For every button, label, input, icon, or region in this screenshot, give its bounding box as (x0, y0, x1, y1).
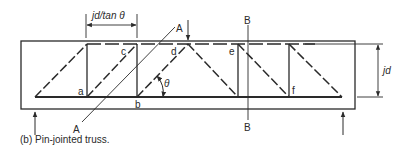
angle-arc (157, 76, 163, 97)
node-label-a: a (78, 86, 84, 97)
figure-caption: (b) Pin-jointed truss. (20, 134, 109, 145)
node-label-f: f (292, 85, 295, 96)
diagonal-e-f (238, 44, 289, 97)
diagonal-end (289, 44, 342, 97)
diagonal-b-d (137, 44, 188, 97)
diagonal-a-c (87, 44, 137, 97)
beam-outline (21, 41, 355, 109)
node-label-e: e (229, 46, 235, 57)
node-label-b: b (135, 99, 141, 110)
section-a-top-label: A (176, 23, 183, 34)
section-b-top-label: B (244, 15, 251, 26)
depth-dimension-label: jd (381, 65, 391, 76)
node-label-c: c (121, 46, 126, 57)
section-b-bottom-label: B (244, 122, 251, 133)
angle-label: θ (164, 78, 170, 89)
node-label-d: d (171, 46, 177, 57)
pin-jointed-truss-diagram: θ A A B B jd/tan θ jd a b c d e f (b) Pi… (0, 0, 407, 151)
spacing-dimension-label: jd/tan θ (90, 10, 125, 21)
